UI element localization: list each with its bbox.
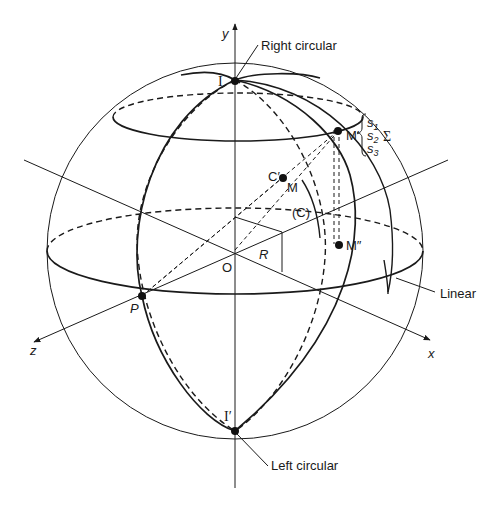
label-left-circular: Left circular bbox=[271, 458, 339, 473]
label-point-o: O bbox=[222, 260, 232, 275]
latitude-back bbox=[113, 93, 363, 117]
label-radius: R bbox=[259, 247, 268, 262]
point-m-prime bbox=[334, 127, 342, 135]
label-point-i-prime: I′ bbox=[224, 409, 232, 424]
label-linear: Linear bbox=[440, 286, 477, 301]
label-circle-c: (C) bbox=[292, 205, 310, 220]
dash-p-to-cprime bbox=[142, 178, 282, 296]
point-i-prime bbox=[231, 427, 239, 435]
latitude-front bbox=[113, 117, 363, 141]
meridian-back-right bbox=[235, 80, 325, 431]
label-point-m-prime: M′ bbox=[346, 128, 360, 143]
meridian-cap-left bbox=[181, 72, 235, 80]
label-right-circular: Right circular bbox=[261, 38, 338, 53]
point-c-prime bbox=[279, 174, 287, 182]
point-m-double-prime bbox=[335, 241, 343, 249]
label-point-p: P bbox=[130, 301, 139, 316]
meridian-cap-right bbox=[235, 74, 320, 80]
meridian-front-left bbox=[137, 80, 235, 431]
x-axis bbox=[24, 160, 430, 340]
axis-label-z: z bbox=[29, 343, 37, 358]
point-p bbox=[138, 292, 146, 300]
z-axis bbox=[34, 160, 448, 342]
meridian-back-left bbox=[137, 80, 235, 431]
axis-label-y: y bbox=[221, 26, 230, 41]
label-point-m: M bbox=[287, 180, 298, 195]
label-point-i: I bbox=[218, 74, 223, 89]
leader-linear bbox=[396, 278, 435, 292]
leader-right-circular bbox=[236, 45, 258, 78]
leader-left-circular bbox=[237, 434, 268, 466]
poincare-sphere-diagram: y x z Right circular Left circular Linea… bbox=[0, 0, 496, 505]
point-i bbox=[231, 77, 239, 85]
label-sigma: Σ bbox=[383, 129, 391, 144]
label-point-c-prime: C′ bbox=[268, 169, 280, 184]
axis-label-x: x bbox=[427, 346, 435, 361]
label-point-m-double-prime: M″ bbox=[346, 238, 362, 253]
